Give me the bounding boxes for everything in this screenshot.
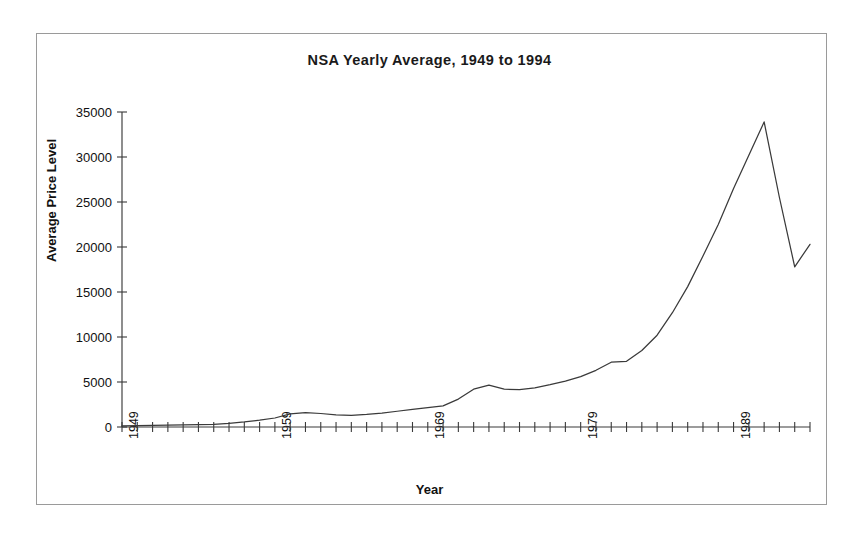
series-line-0 xyxy=(122,122,810,426)
plot-area xyxy=(0,0,859,535)
data-series xyxy=(122,122,810,426)
axes xyxy=(122,112,810,427)
chart-figure: NSA Yearly Average, 1949 to 1994 Average… xyxy=(0,0,859,535)
axis-ticks xyxy=(117,112,810,432)
